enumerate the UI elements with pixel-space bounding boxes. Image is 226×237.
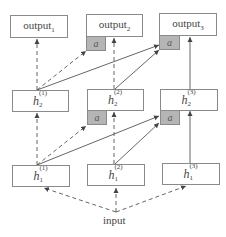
h2-3-node: h(3)2 (160, 89, 218, 111)
edge-input-to-h1-3 (116, 186, 186, 212)
edge-h1-2-to-h2-3-attention (115, 123, 159, 164)
output3-node: output3 (159, 13, 217, 36)
h2-1-label: h(1)2 (33, 94, 48, 109)
h1-2-node: h(2)1 (87, 164, 145, 186)
output1-label: output1 (23, 19, 55, 34)
h2-2-node: h(2)2 (87, 89, 144, 111)
h2-2-attention-node: a (87, 110, 107, 125)
edge-h1-1-to-h2-2-attention (37, 126, 86, 165)
edge-h2-1-to-output2-attention (37, 51, 86, 90)
output1-node: output1 (10, 15, 68, 38)
edge-h2-2-to-output3-attention (115, 50, 159, 89)
h2-3-attention-node: a (160, 110, 180, 125)
h2-2-label: h(2)2 (108, 93, 123, 108)
output2-label: output2 (99, 18, 131, 33)
attention-label: a (167, 37, 172, 48)
h1-3-label: h(3)1 (184, 167, 199, 182)
h1-1-label: h(1)1 (34, 169, 49, 184)
attention-label: a (95, 112, 100, 123)
output2-node: output2 (86, 14, 143, 37)
attention-label: a (168, 112, 173, 123)
output3-attention-node: a (159, 35, 180, 50)
edge-input-to-h1-1 (44, 188, 116, 212)
h2-1-node: h(1)2 (12, 90, 69, 112)
h1-1-node: h(1)1 (12, 165, 70, 187)
edge-h2-1-to-output3-attention (37, 45, 159, 90)
output2-attention-node: a (86, 36, 106, 51)
output3-label: output3 (172, 17, 204, 32)
h2-3-label: h(3)2 (182, 93, 197, 108)
h1-2-label: h(2)1 (109, 168, 124, 183)
h1-3-node: h(3)1 (162, 163, 220, 185)
attention-label: a (94, 38, 99, 49)
input-label: input (103, 214, 126, 226)
